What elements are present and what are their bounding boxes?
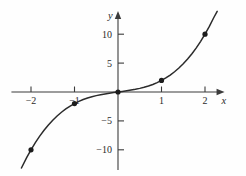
data-point-marker (72, 101, 77, 106)
data-point-marker (202, 32, 207, 37)
y-tick-label: 5 (107, 58, 112, 69)
y-tick-label: −10 (96, 144, 112, 155)
data-point-marker (28, 147, 33, 152)
function-curve (21, 11, 217, 168)
x-axis-ticks: −2−112 (26, 87, 208, 106)
graph-figure: −2−112 105−5−10 x y (0, 0, 246, 176)
coordinate-plane-svg: −2−112 105−5−10 x y (0, 0, 246, 176)
y-tick-label: 10 (102, 29, 112, 40)
x-tick-label: 2 (203, 95, 208, 106)
data-point-marker (115, 89, 120, 94)
x-axis-label: x (221, 95, 227, 106)
y-axis-label: y (107, 10, 113, 21)
y-axis-arrowhead (115, 11, 121, 19)
data-point-marker (159, 78, 164, 83)
y-tick-label: −5 (101, 115, 112, 126)
x-tick-label: −2 (26, 95, 37, 106)
x-tick-label: 1 (159, 95, 164, 106)
curve-path (21, 11, 217, 168)
